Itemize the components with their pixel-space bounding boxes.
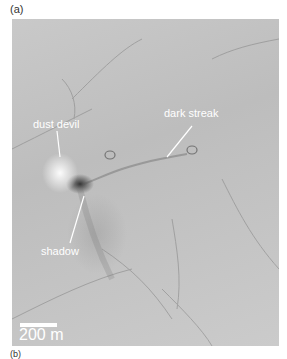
shadow-label: shadow: [41, 245, 79, 257]
terrain-features: [12, 19, 279, 346]
dust-devil-label: dust devil: [33, 118, 79, 130]
panel-b-label: (b): [10, 349, 21, 359]
shadow-pointer: [70, 196, 84, 243]
dark-streak-label: dark streak: [164, 107, 218, 119]
scale-bar-label: 200 m: [19, 326, 63, 344]
panel-a-label: (a): [10, 3, 23, 15]
dust-devil-photo: dust devil dark streak shadow 200 m: [12, 19, 279, 346]
dust-devil-pointer: [57, 131, 60, 157]
